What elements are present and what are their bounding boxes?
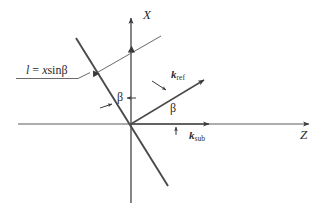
x-axis-label: X (143, 8, 151, 21)
k-sub-label: ksub (189, 130, 205, 142)
k-ref-subscript: ref (177, 73, 186, 82)
path-difference-sine: sin (47, 63, 61, 77)
k-ref-label: kref (171, 69, 185, 81)
k-ref-pointer-icon (152, 81, 166, 90)
wavefront-axis-marker-icon (128, 46, 135, 53)
diagram-canvas: X Z l = xsinβ kref ksub β β (0, 0, 322, 224)
k-sub-subscript: sub (195, 134, 206, 143)
k-ref-vector (131, 80, 204, 124)
wavefront-line (93, 36, 161, 75)
path-difference-beta: β (61, 63, 67, 77)
beta-left-label: β (117, 91, 123, 103)
grating-line (76, 38, 168, 186)
path-difference-label: l = xsinβ (26, 64, 68, 76)
beta-right-label: β (170, 102, 176, 114)
path-difference-equals: = (29, 63, 42, 77)
z-axis-label: Z (300, 128, 307, 141)
diagram-vector-layer (0, 0, 322, 224)
